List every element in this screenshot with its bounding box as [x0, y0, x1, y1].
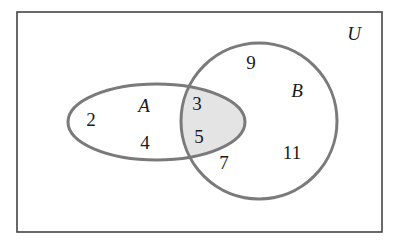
- element-3: 3: [192, 93, 202, 114]
- element-4: 4: [140, 132, 150, 153]
- venn-diagram: A B U 2 4 3 5 9 7 11: [0, 0, 397, 242]
- element-7: 7: [219, 152, 229, 173]
- set-b-label: B: [291, 80, 303, 101]
- element-5: 5: [194, 126, 204, 147]
- element-2: 2: [86, 109, 96, 130]
- set-a-label: A: [136, 95, 150, 116]
- universe-label: U: [347, 23, 362, 44]
- element-9: 9: [246, 52, 256, 73]
- element-11: 11: [283, 142, 301, 163]
